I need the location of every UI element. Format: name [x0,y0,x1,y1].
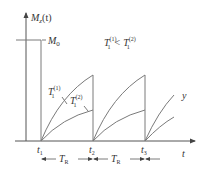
time-label-t2: t2 [89,144,95,156]
curve-label-t1-1: T(1)1 [48,85,61,99]
curve-t1-1-period-3 [145,95,174,141]
saturation-recovery-diagram: Mz(t) M0 T(1)1<T(2)1 T(1)1 T(2)1 y t1 t2… [0,0,204,174]
leader-t1-2 [84,106,88,111]
curve-t1-2-period-3 [145,117,174,141]
m0-label: M0 [47,35,60,48]
relation-label: T(1)1<T(2)1 [104,36,136,50]
curve-label-t1-2: T(2)1 [70,94,83,108]
y-axis-label: Mz(t) [30,12,52,25]
curve-t1-2-period-1 [41,110,93,141]
extra-label-y: y [181,90,187,101]
x-axis-label: t [182,148,185,159]
tr-label-2: TR [111,153,121,165]
tr-label-1: TR [59,153,69,165]
curve-t1-2-period-2 [93,110,145,141]
time-label-t3: t3 [141,144,147,156]
time-label-t1: t1 [37,144,43,156]
curve-t1-1-period-2 [93,75,145,141]
